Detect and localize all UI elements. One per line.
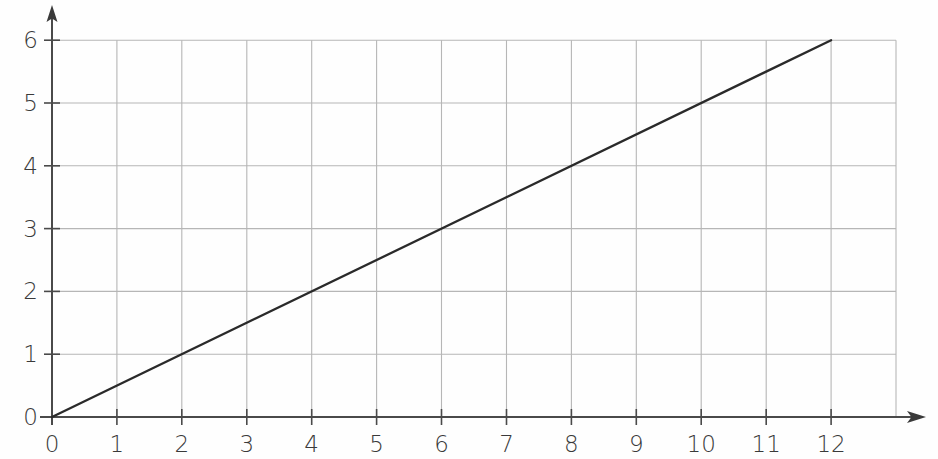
x-tick-label-12: 12	[816, 433, 845, 456]
x-tick-label-6: 6	[434, 433, 449, 456]
x-tick-label-3: 3	[239, 433, 254, 456]
x-tick-label-11: 11	[752, 433, 781, 456]
y-tick-label-5: 5	[23, 92, 38, 115]
chart-canvas	[0, 0, 938, 459]
line-chart: 0 1 2 3 4 5 6 7 8 9 10 11 12 0 1 2 3 4 5…	[0, 0, 938, 459]
x-tick-label-4: 4	[304, 433, 319, 456]
x-tick-label-7: 7	[499, 433, 514, 456]
y-tick-label-3: 3	[23, 217, 38, 240]
x-tick-label-9: 9	[629, 433, 644, 456]
x-tick-label-2: 2	[174, 433, 189, 456]
y-tick-label-4: 4	[23, 154, 38, 177]
y-tick-label-2: 2	[23, 280, 38, 303]
x-tick-label-10: 10	[687, 433, 716, 456]
x-tick-label-0: 0	[45, 433, 60, 456]
y-tick-label-1: 1	[23, 343, 38, 366]
chart-background	[0, 0, 938, 459]
x-tick-label-8: 8	[564, 433, 579, 456]
x-tick-label-5: 5	[369, 433, 384, 456]
x-tick-label-1: 1	[110, 433, 125, 456]
y-tick-label-6: 6	[23, 29, 38, 52]
y-tick-label-0: 0	[23, 406, 38, 429]
